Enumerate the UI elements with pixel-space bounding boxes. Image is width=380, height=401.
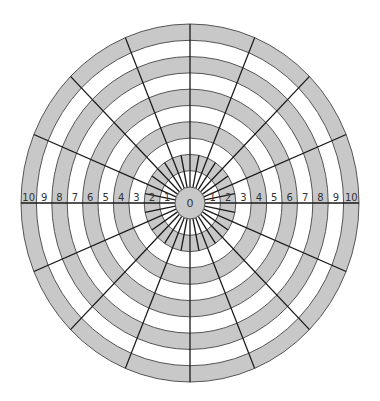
axis-label: 4 bbox=[256, 192, 262, 203]
axis-label: 4 bbox=[118, 192, 124, 203]
axis-label: 9 bbox=[333, 192, 339, 203]
axis-label: 6 bbox=[287, 192, 293, 203]
axis-label: 3 bbox=[240, 192, 246, 203]
axis-label: 3 bbox=[133, 192, 139, 203]
axis-label: 5 bbox=[103, 192, 109, 203]
axis-label: 1 bbox=[164, 192, 170, 203]
polar-grid-svg: 1234567891010987654321 0 bbox=[0, 0, 380, 401]
axis-label: 10 bbox=[22, 192, 35, 203]
axis-label: 2 bbox=[149, 192, 155, 203]
axis-label: 1 bbox=[210, 192, 216, 203]
axis-label: 2 bbox=[225, 192, 231, 203]
axis-label: 7 bbox=[72, 192, 78, 203]
axis-label: 8 bbox=[56, 192, 62, 203]
center-label: 0 bbox=[187, 197, 194, 210]
axis-label: 7 bbox=[302, 192, 308, 203]
axis-label: 10 bbox=[345, 192, 358, 203]
axis-label: 9 bbox=[41, 192, 47, 203]
axis-label: 6 bbox=[87, 192, 93, 203]
axis-label: 8 bbox=[317, 192, 323, 203]
polar-grid-diagram: 1234567891010987654321 0 bbox=[0, 0, 380, 401]
axis-label: 5 bbox=[271, 192, 277, 203]
